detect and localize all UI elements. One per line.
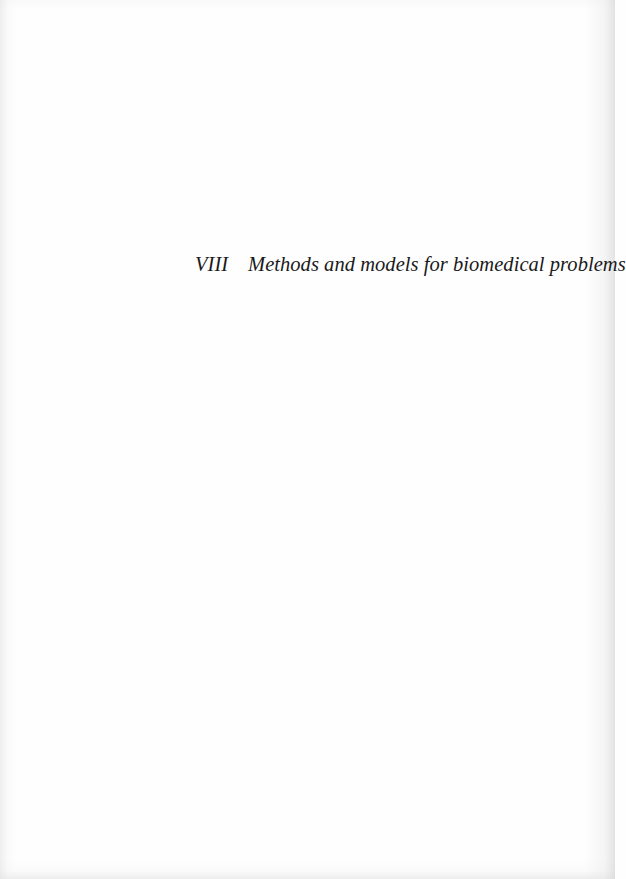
part-number: VIII: [195, 252, 248, 276]
part-title: Methods and models for biomedical proble…: [248, 252, 626, 276]
part-heading: VIIIMethods and models for biomedical pr…: [195, 252, 626, 276]
